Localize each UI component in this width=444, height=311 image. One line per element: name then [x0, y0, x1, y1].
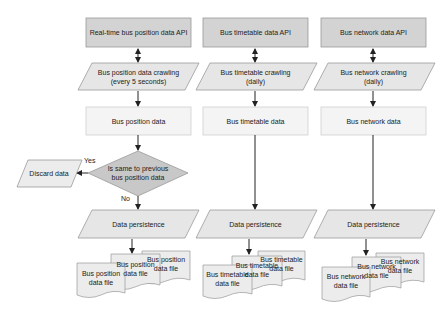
- doc-label: Bus timetable data file: [203, 266, 252, 292]
- discard-label: Discard data: [20, 160, 78, 187]
- no-label: No: [121, 195, 130, 202]
- decision-label: Is same to previous bus position data: [103, 160, 173, 186]
- persist-label-timetable: Data persistence: [203, 210, 308, 238]
- api-label-network: Bus network data API: [321, 18, 426, 47]
- crawl-label-network: Bus network crawling (daily): [321, 63, 426, 90]
- data-label-network: Bus network data: [321, 107, 426, 135]
- persist-label-network: Data persistence: [321, 210, 426, 238]
- crawl-label-position: Bus position data crawling (every 5 seco…: [86, 63, 191, 90]
- persist-label-position: Data persistence: [86, 210, 191, 238]
- doc-label: Bus position data file: [77, 265, 125, 291]
- api-label-timetable: Bus timetable data API: [203, 18, 308, 47]
- doc-label: Bus network data file: [322, 268, 370, 294]
- api-label-position: Real-time bus position data API: [86, 18, 191, 47]
- data-label-timetable: Bus timetable data: [203, 107, 308, 135]
- crawl-label-timetable: Bus timetable crawling (daily): [203, 63, 308, 90]
- data-label-position: Bus position data: [86, 107, 191, 135]
- yes-label: Yes: [84, 157, 95, 164]
